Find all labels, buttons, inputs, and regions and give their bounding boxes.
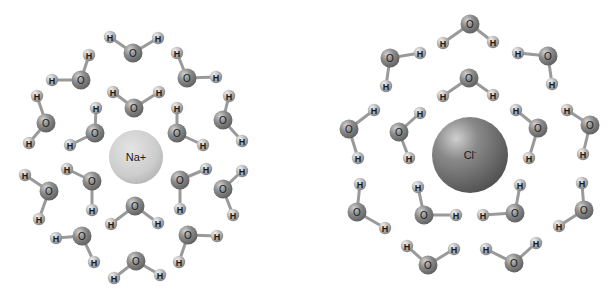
oxygen-atom: O bbox=[168, 124, 187, 143]
sodium-ion: Na+ bbox=[109, 130, 163, 184]
hydrogen-atom: H bbox=[174, 203, 186, 215]
sodium-water-molecule: HHO bbox=[173, 226, 223, 269]
oxygen-label: O bbox=[544, 51, 552, 62]
chloride-hydration-shell: HHOHHOHHOHHOHHOHHOHHOHHOHHOHHOHHOHHOHHOH… bbox=[340, 15, 600, 275]
oxygen-label: O bbox=[131, 201, 139, 212]
hydrogen-atom: H bbox=[50, 232, 62, 244]
hydrogen-atom: H bbox=[553, 220, 565, 232]
hydrogen-label: H bbox=[177, 205, 184, 215]
hydrogen-label: H bbox=[89, 206, 96, 216]
hydrogen-label: H bbox=[383, 82, 390, 92]
hydrogen-label: H bbox=[67, 141, 74, 151]
hydrogen-label: H bbox=[515, 49, 522, 59]
hydrogen-label: H bbox=[214, 232, 221, 242]
chloride-water-molecule: HHO bbox=[340, 104, 381, 164]
hydrogen-atom: H bbox=[352, 152, 364, 164]
hydrogen-atom: H bbox=[412, 181, 424, 193]
oxygen-atom: O bbox=[40, 182, 59, 201]
sodium-water-molecule: HHO bbox=[214, 165, 249, 221]
hydrogen-atom: H bbox=[477, 209, 489, 221]
oxygen-atom: O bbox=[178, 69, 197, 88]
sodium-water-molecule: HHO bbox=[107, 86, 165, 118]
oxygen-atom: O bbox=[460, 69, 479, 88]
oxygen-atom: O bbox=[461, 15, 480, 34]
hydrogen-label: H bbox=[556, 222, 563, 232]
hydrogen-label: H bbox=[174, 104, 181, 114]
hydrogen-atom: H bbox=[108, 272, 120, 284]
chloride-label-base: Cl bbox=[464, 149, 474, 161]
hydrogen-atom: H bbox=[86, 204, 98, 216]
oxygen-atom: O bbox=[381, 49, 400, 68]
hydrogen-atom: H bbox=[403, 152, 415, 164]
hydrogen-label: H bbox=[155, 219, 162, 229]
sodium-hydration-shell: HHOHHOHHOHHOHHOHHOHHOHHOHHOHHOHHOHHOHHOH… bbox=[19, 31, 248, 284]
hydrogen-atom: H bbox=[90, 102, 102, 114]
hydrogen-atom: H bbox=[448, 243, 460, 255]
hydrogen-atom: H bbox=[414, 47, 426, 59]
hydrogen-label: H bbox=[93, 104, 100, 114]
hydrogen-atom: H bbox=[19, 169, 31, 181]
hydrogen-atom: H bbox=[236, 135, 248, 147]
hydrogen-label: H bbox=[53, 234, 60, 244]
hydrogen-label: H bbox=[176, 258, 183, 268]
oxygen-atom: O bbox=[126, 197, 145, 216]
hydrogen-atom: H bbox=[437, 37, 449, 49]
oxygen-atom: O bbox=[127, 252, 146, 271]
hydrogen-atom: H bbox=[437, 90, 449, 102]
hydrogen-atom: H bbox=[171, 47, 183, 59]
oxygen-label: O bbox=[184, 230, 192, 241]
hydrogen-label: H bbox=[22, 171, 29, 181]
hydrogen-label: H bbox=[49, 76, 56, 86]
oxygen-atom: O bbox=[529, 119, 548, 138]
hydrogen-atom: H bbox=[61, 163, 73, 175]
hydrogen-atom: H bbox=[107, 86, 119, 98]
hydrogen-label: H bbox=[357, 180, 364, 190]
oxygen-label: O bbox=[78, 231, 86, 242]
hydrogen-label: H bbox=[174, 49, 181, 59]
oxygen-label: O bbox=[176, 175, 184, 186]
hydrogen-atom: H bbox=[153, 86, 165, 98]
oxygen-atom: O bbox=[86, 124, 105, 143]
hydrogen-atom: H bbox=[354, 178, 366, 190]
hydrogen-label: H bbox=[86, 51, 93, 61]
hydrogen-label: H bbox=[26, 139, 33, 149]
hydrogen-atom: H bbox=[64, 139, 76, 151]
oxygen-label: O bbox=[510, 258, 518, 269]
hydrogen-label: H bbox=[371, 106, 378, 116]
chloride-water-molecule: HHO bbox=[437, 15, 499, 50]
hydrogen-label: H bbox=[579, 179, 586, 189]
hydrogen-label: H bbox=[34, 92, 41, 102]
oxygen-label: O bbox=[466, 19, 474, 30]
sodium-water-molecule: HHO bbox=[108, 252, 166, 285]
oxygen-label: O bbox=[173, 128, 181, 139]
oxygen-label: O bbox=[42, 118, 50, 129]
hydrogen-atom: H bbox=[31, 90, 43, 102]
oxygen-atom: O bbox=[390, 123, 409, 142]
hydrogen-atom: H bbox=[523, 152, 535, 164]
hydrogen-label: H bbox=[156, 88, 163, 98]
oxygen-label: O bbox=[395, 127, 403, 138]
hydrogen-atom: H bbox=[154, 269, 166, 281]
hydrogen-label: H bbox=[406, 154, 413, 164]
hydrogen-atom: H bbox=[173, 256, 185, 268]
chloride-water-molecule: HHO bbox=[512, 47, 558, 91]
chloride-water-molecule: HHO bbox=[437, 69, 499, 103]
hydrogen-atom: H bbox=[380, 80, 392, 92]
sodium-water-molecule: HHO bbox=[214, 90, 249, 147]
hydrogen-label: H bbox=[564, 106, 571, 116]
hydrogen-atom: H bbox=[577, 148, 589, 160]
oxygen-atom: O bbox=[125, 99, 144, 118]
hydrogen-atom: H bbox=[227, 209, 239, 221]
hydrogen-atom: H bbox=[401, 240, 413, 252]
hydrogen-atom: H bbox=[576, 177, 588, 189]
hydrogen-label: H bbox=[108, 220, 115, 230]
oxygen-label: O bbox=[580, 205, 588, 216]
oxygen-atom: O bbox=[73, 227, 92, 246]
hydrogen-atom: H bbox=[450, 209, 462, 221]
hydrogen-atom: H bbox=[83, 49, 95, 61]
hydrogen-atom: H bbox=[88, 256, 100, 268]
hydrogen-label: H bbox=[226, 92, 233, 102]
sodium-water-molecule: HHO bbox=[105, 197, 164, 231]
hydrogen-label: H bbox=[64, 165, 71, 175]
oxygen-label: O bbox=[219, 184, 227, 195]
